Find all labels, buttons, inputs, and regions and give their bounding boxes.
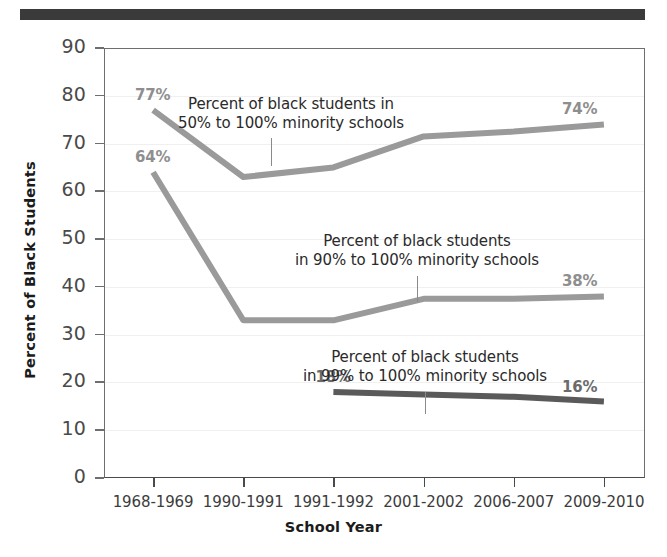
x-axis-title: School Year	[0, 519, 667, 535]
y-tick-mark	[95, 238, 104, 240]
data-point-label: 77%	[135, 86, 170, 104]
y-tick-mark	[95, 286, 104, 288]
gridline	[105, 144, 644, 145]
annotation-leader-line	[417, 276, 418, 302]
y-tick-mark	[95, 47, 104, 49]
y-tick-label: 20	[0, 369, 86, 391]
x-tick-label: 2009-2010	[544, 493, 664, 511]
x-tick-mark	[153, 478, 155, 487]
data-point-label: 64%	[135, 148, 170, 166]
x-tick-mark	[604, 478, 606, 487]
x-tick-mark	[333, 478, 335, 487]
y-tick-mark	[95, 143, 104, 145]
x-tick-mark	[243, 478, 245, 487]
chart-figure: 0102030405060708090 Percent of Black Stu…	[0, 0, 667, 557]
y-tick-mark	[95, 190, 104, 192]
y-tick-mark	[95, 429, 104, 431]
y-tick-label: 30	[0, 322, 86, 344]
y-tick-label: 40	[0, 274, 86, 296]
y-tick-mark	[95, 477, 104, 479]
data-point-label: 16%	[562, 378, 597, 396]
data-point-label: 38%	[562, 272, 597, 290]
data-point-label: 74%	[562, 100, 597, 118]
annot-50-100: Percent of black students in 50% to 100%…	[176, 95, 406, 133]
annotation-leader-line	[271, 138, 272, 166]
gridline	[105, 335, 644, 336]
annotation-leader-line	[425, 392, 426, 414]
y-tick-mark	[95, 381, 104, 383]
y-tick-mark	[95, 95, 104, 97]
y-axis: 0102030405060708090	[0, 0, 104, 557]
y-axis-title: Percent of Black Students	[22, 150, 38, 390]
y-tick-label: 70	[0, 131, 86, 153]
gridline	[105, 191, 644, 192]
y-tick-label: 90	[0, 35, 86, 57]
top-rule-decoration	[20, 9, 645, 20]
y-tick-label: 10	[0, 417, 86, 439]
gridline	[105, 430, 644, 431]
y-tick-label: 80	[0, 83, 86, 105]
x-tick-mark	[514, 478, 516, 487]
y-tick-label: 60	[0, 178, 86, 200]
x-tick-mark	[424, 478, 426, 487]
annot-99-100: Percent of black students in 99% to 100%…	[300, 348, 550, 386]
y-tick-mark	[95, 334, 104, 336]
annot-90-100: Percent of black students in 90% to 100%…	[292, 232, 542, 270]
y-tick-label: 50	[0, 226, 86, 248]
y-tick-label: 0	[0, 465, 86, 487]
